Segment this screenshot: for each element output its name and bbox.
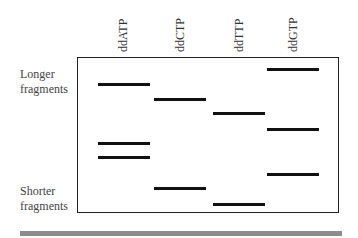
lane-label-ddgtp: ddGTP xyxy=(286,14,300,52)
bottom-bar xyxy=(20,231,342,236)
band-ddttp xyxy=(213,203,265,206)
side-label-longer: Longer fragments xyxy=(20,67,68,96)
band-ddatp xyxy=(98,156,150,159)
lane-label-ddatp: ddATP xyxy=(116,14,130,52)
gel-box xyxy=(77,57,339,213)
band-ddatp xyxy=(98,83,150,86)
band-ddgtp xyxy=(267,128,319,131)
band-ddctp xyxy=(154,187,206,190)
band-ddatp xyxy=(98,142,150,145)
side-label-shorter: Shorter fragments xyxy=(20,184,68,213)
band-ddgtp xyxy=(267,173,319,176)
band-ddctp xyxy=(154,98,206,101)
lane-label-ddctp: ddCTP xyxy=(173,14,187,52)
band-ddgtp xyxy=(267,68,319,71)
band-ddttp xyxy=(213,112,265,115)
lane-label-ddttp: ddTTP xyxy=(232,14,246,52)
